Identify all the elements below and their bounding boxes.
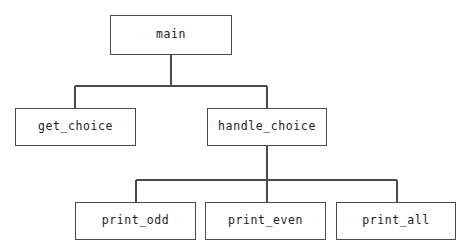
node-print-odd-label: print_odd bbox=[102, 215, 170, 227]
node-get-choice-label: get_choice bbox=[38, 121, 113, 133]
node-handle-choice[interactable]: handle_choice bbox=[207, 108, 327, 146]
node-print-all-label: print_all bbox=[362, 215, 430, 227]
node-get-choice[interactable]: get_choice bbox=[15, 108, 136, 146]
node-print-even[interactable]: print_even bbox=[205, 202, 326, 240]
node-print-odd[interactable]: print_odd bbox=[75, 202, 196, 240]
node-main-label: main bbox=[156, 29, 186, 41]
call-graph-diagram: main get_choice handle_choice print_odd … bbox=[0, 0, 471, 246]
node-handle-choice-label: handle_choice bbox=[218, 121, 316, 133]
node-main[interactable]: main bbox=[110, 15, 232, 55]
node-print-even-label: print_even bbox=[228, 215, 303, 227]
node-print-all[interactable]: print_all bbox=[336, 202, 456, 240]
